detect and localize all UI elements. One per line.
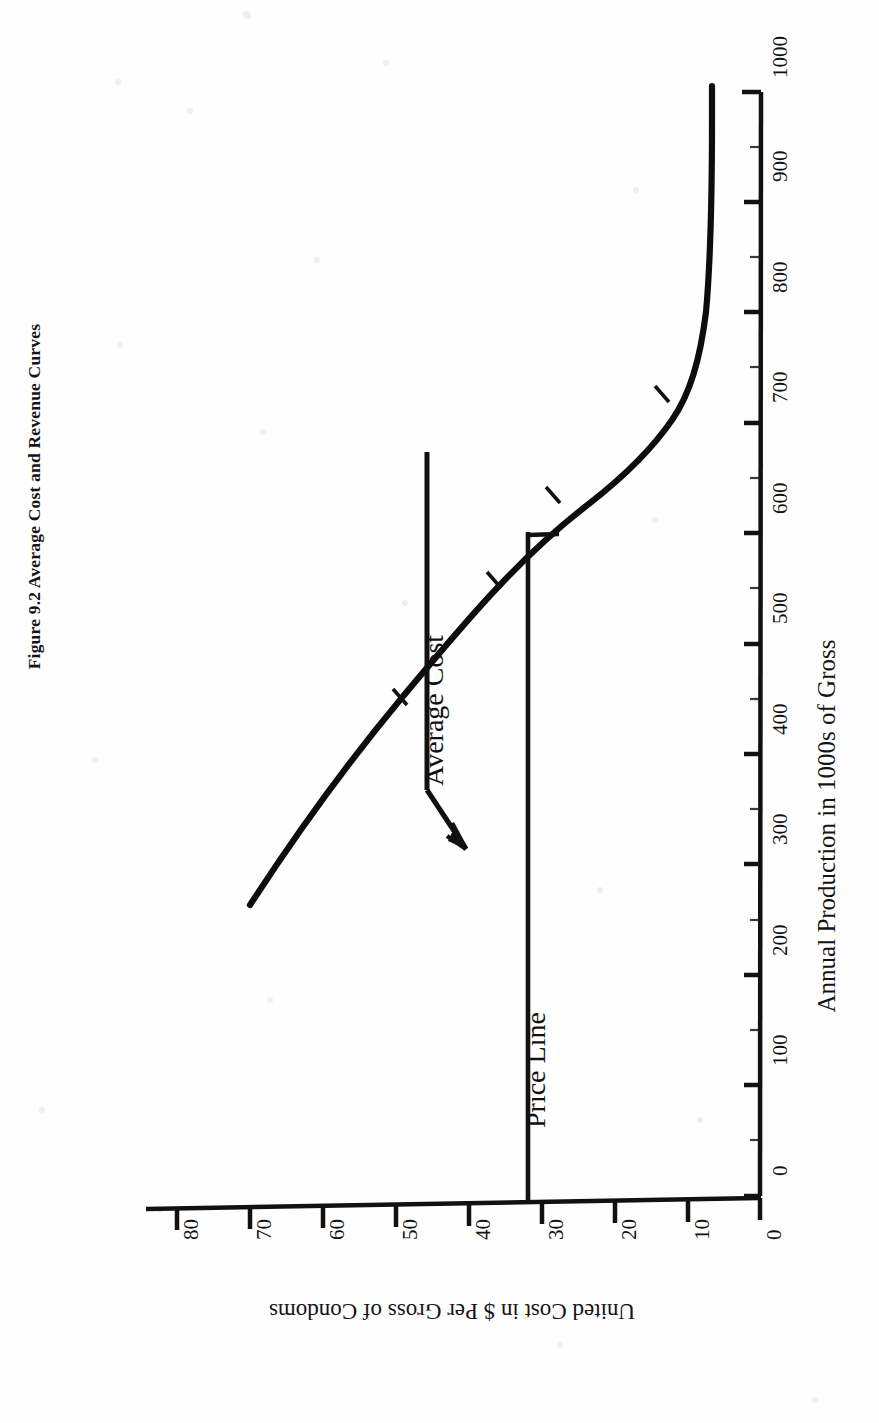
y-axis-title: United Cost in $ Per Gross of Condoms [152,1298,752,1324]
y-tick-40: 40 [471,1219,496,1240]
x-tick-0: 0 [768,1166,793,1177]
figure-title: Figure 9.2 Average Cost and Revenue Curv… [24,257,45,737]
y-tick-70: 70 [252,1219,277,1240]
x-tick-400: 400 [768,704,793,736]
x-tick-200: 200 [768,925,793,957]
x-tick-600: 600 [768,483,793,515]
y-axis [146,1198,760,1230]
x-tick-300: 300 [768,814,793,846]
y-tick-50: 50 [398,1219,423,1240]
y-tick-0: 0 [762,1230,787,1241]
average-cost-curve [250,86,712,905]
y-tick-60: 60 [325,1219,350,1240]
x-tick-100: 100 [768,1035,793,1067]
x-tick-700: 700 [768,372,793,404]
figure-page: 0 100 200 300 400 500 600 700 800 900 10… [0,0,879,1423]
y-tick-20: 20 [617,1219,642,1240]
y-tick-30: 30 [544,1219,569,1240]
y-tick-80: 80 [179,1219,204,1240]
x-tick-800: 800 [768,262,793,294]
x-tick-900: 900 [768,151,793,183]
y-tick-10: 10 [690,1219,715,1240]
x-axis-title: Annual Production in 1000s of Gross [813,546,841,1106]
average-cost-label: Average Cost [418,635,450,786]
x-axis [742,92,761,1196]
x-tick-500: 500 [768,593,793,625]
price-line-label: Price Line [520,1012,552,1128]
x-tick-1000: 1000 [768,36,793,78]
